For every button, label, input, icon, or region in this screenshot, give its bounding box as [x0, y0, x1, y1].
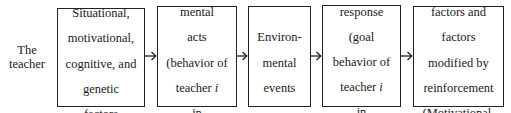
box-hereditary-factors: Hereditary factors and factors modified … [413, 6, 504, 107]
arrow-right-icon [401, 50, 413, 62]
box-environmental-events-text: Environ- mental events [255, 19, 303, 95]
arrow-right-icon [311, 50, 322, 62]
text-line: events [264, 81, 296, 95]
box-situational-factors: Situational, motivational, cognitive, an… [57, 8, 145, 107]
text-line: teacher i [176, 81, 219, 95]
text-line: (Motivational, [423, 106, 495, 113]
text-line: Environ- [257, 30, 301, 44]
actor-label-line-2: teacher [9, 57, 45, 71]
text-line: mental [180, 5, 214, 19]
box-goal-response: Goal response (goal behavior of teacher … [322, 5, 401, 107]
text-line: in [357, 105, 367, 113]
box-instrumental-acts: Instru- mental acts (behavior of teacher… [157, 6, 237, 107]
text-line: factors and [431, 5, 486, 19]
text-line: modified by [428, 56, 489, 70]
text-line: cognitive, and [66, 57, 137, 71]
arrow-right-icon [237, 50, 248, 62]
text-line: in [192, 106, 202, 113]
text-line: acts [187, 30, 206, 44]
arrow-right-icon [145, 50, 157, 62]
text-line: genetic [83, 82, 119, 96]
text-line: factors [84, 107, 118, 113]
box-instrumental-acts-text: Instru- mental acts (behavior of teacher… [164, 0, 229, 113]
text-line: motivational, [68, 31, 134, 45]
text-line: response [340, 5, 384, 19]
box-goal-response-text: Goal response (goal behavior of teacher … [331, 0, 392, 113]
text-line: behavior of [333, 55, 390, 69]
text-line: mental [262, 56, 296, 70]
actor-label-the-teacher: The teacher [0, 43, 54, 71]
actor-label-line-1: The [17, 43, 36, 57]
box-environmental-events: Environ- mental events [248, 6, 311, 107]
text-line: reinforcement [423, 81, 493, 95]
text-line: teacher i [340, 80, 383, 94]
text-line: Situational, [72, 6, 129, 20]
text-line: (goal [349, 30, 375, 44]
box-situational-factors-text: Situational, motivational, cognitive, an… [64, 0, 139, 113]
text-line: factors [441, 30, 475, 44]
text-line: (behavior of [166, 56, 227, 70]
box-hereditary-factors-text: Hereditary factors and factors modified … [421, 0, 497, 113]
